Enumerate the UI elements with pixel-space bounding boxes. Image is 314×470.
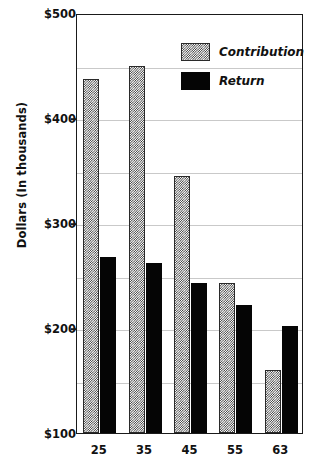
bar-contribution-55 bbox=[219, 283, 235, 433]
gridline bbox=[77, 173, 302, 174]
y-axis-title: Dollars (In thousands) bbox=[15, 75, 29, 275]
bar-contribution-35 bbox=[129, 66, 145, 434]
bar-return-63 bbox=[282, 326, 298, 433]
legend-swatch-return-icon bbox=[181, 72, 210, 90]
y-axis-tick-label: $300 bbox=[16, 217, 76, 231]
y-axis-tick-label: $500 bbox=[16, 7, 76, 21]
x-axis-tick-label: 45 bbox=[167, 443, 213, 457]
x-axis-tick-label: 35 bbox=[121, 443, 167, 457]
legend-swatch-contribution-icon bbox=[181, 43, 210, 61]
bar-return-55 bbox=[236, 305, 252, 433]
legend-item-return: Return bbox=[181, 72, 304, 90]
bar-chart: Dollars (In thousands) $100$200$300$400$… bbox=[0, 0, 314, 470]
legend-label-return: Return bbox=[219, 74, 265, 88]
legend-item-contribution: Contribution bbox=[181, 43, 304, 61]
bar-contribution-25 bbox=[83, 79, 99, 433]
y-axis-tick-label: $100 bbox=[16, 427, 76, 441]
chart-legend: Contribution Return bbox=[181, 43, 304, 90]
bar-return-25 bbox=[100, 257, 116, 433]
x-axis-tick-label: 55 bbox=[212, 443, 258, 457]
bar-contribution-63 bbox=[265, 370, 281, 433]
y-axis-tick-label: $400 bbox=[16, 112, 76, 126]
bar-return-45 bbox=[191, 283, 207, 433]
gridline bbox=[77, 120, 302, 121]
x-axis-tick-label: 63 bbox=[257, 443, 303, 457]
bar-contribution-45 bbox=[174, 176, 190, 433]
y-axis-tick-label: $200 bbox=[16, 322, 76, 336]
bar-return-35 bbox=[146, 263, 162, 433]
x-axis-tick-label: 25 bbox=[76, 443, 122, 457]
legend-label-contribution: Contribution bbox=[219, 45, 304, 59]
